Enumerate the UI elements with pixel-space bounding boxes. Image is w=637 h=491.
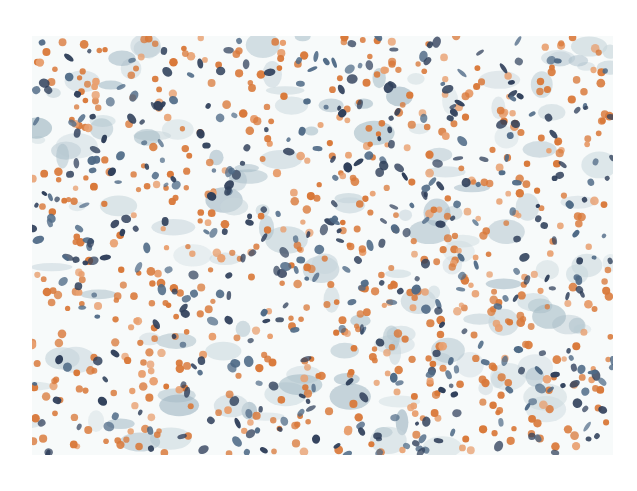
micrograph-image	[32, 36, 613, 455]
cell-field	[32, 36, 613, 455]
